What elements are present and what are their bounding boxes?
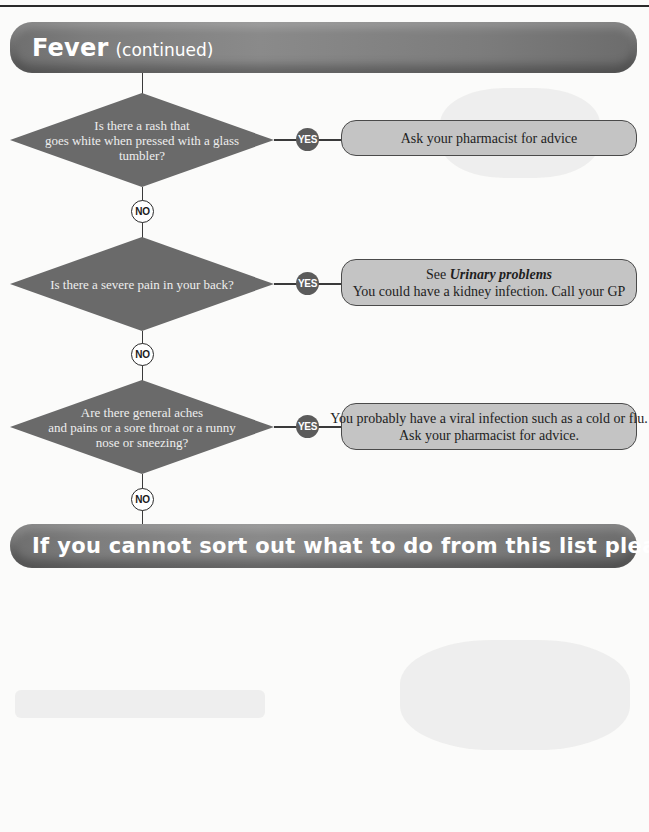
no-badge: NO — [131, 488, 154, 511]
yes-badge: YES — [296, 272, 319, 295]
question-line: Is there a rash that — [75, 118, 209, 133]
bleed-through-shape — [15, 690, 265, 718]
no-badge: NO — [131, 200, 154, 223]
see-prefix: See — [426, 267, 450, 282]
decision-diamond-back-pain: Is there a severe pain in your back? — [10, 237, 274, 331]
connector-line — [142, 73, 144, 95]
question-line: goes white when pressed with a glass — [45, 133, 239, 148]
question-line: and pains or a sore throat or a runny — [48, 420, 236, 435]
answer-text: You probably have a viral infection such… — [330, 410, 647, 427]
footer-instruction: If you cannot sort out what to do from t… — [32, 534, 649, 558]
yes-badge: YES — [296, 415, 319, 438]
question-text: Is there a severe pain in your back? — [10, 237, 274, 331]
answer-text: Ask your pharmacist for advice — [401, 130, 578, 147]
page-title: Fever — [32, 34, 108, 62]
decision-diamond-rash: Is there a rash that goes white when pre… — [10, 93, 274, 187]
question-text: Are there general aches and pains or a s… — [10, 380, 274, 474]
page-subtitle: (continued) — [115, 40, 213, 60]
top-rule — [0, 5, 649, 7]
question-line: tumbler? — [75, 148, 209, 163]
question-line: Are there general aches — [78, 405, 206, 420]
footer-banner: If you cannot sort out what to do from t… — [10, 524, 637, 568]
answer-box-kidney: See Urinary problems You could have a ki… — [341, 259, 637, 306]
question-line: nose or sneezing? — [78, 435, 206, 450]
yes-badge: YES — [296, 128, 319, 151]
answer-text: You could have a kidney infection. Call … — [353, 283, 626, 300]
header-banner: Fever (continued) — [10, 22, 637, 73]
answer-text: Ask your pharmacist for advice. — [399, 427, 579, 444]
urinary-problems-link[interactable]: Urinary problems — [450, 267, 552, 282]
answer-box-pharmacist: Ask your pharmacist for advice — [341, 120, 637, 156]
see-reference: See Urinary problems — [426, 266, 552, 283]
decision-diamond-aches: Are there general aches and pains or a s… — [10, 380, 274, 474]
answer-box-viral: You probably have a viral infection such… — [341, 403, 637, 450]
question-line: Is there a severe pain in your back? — [50, 277, 234, 292]
bleed-through-shape — [400, 640, 630, 750]
question-text: Is there a rash that goes white when pre… — [10, 93, 274, 187]
no-badge: NO — [131, 343, 154, 366]
